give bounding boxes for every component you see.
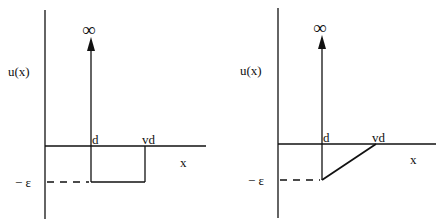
potential-diagrams	[0, 0, 441, 224]
right-eps-label: − ε	[248, 174, 264, 187]
left-eps-label: − ε	[15, 176, 31, 189]
right-d-label: d	[323, 131, 330, 144]
left-ylabel: u(x)	[8, 65, 30, 78]
right-vd-label: vd	[372, 131, 385, 144]
left-panel	[45, 10, 206, 219]
right-infinity-label: ∞	[313, 18, 327, 37]
left-vd-label: vd	[142, 133, 155, 146]
left-xlabel: x	[180, 156, 187, 169]
left-d-label: d	[92, 133, 99, 146]
right-well-slope	[322, 144, 376, 180]
right-ylabel: u(x)	[240, 64, 262, 77]
left-infinity-label: ∞	[82, 20, 96, 39]
right-xlabel: x	[410, 153, 417, 166]
right-panel	[278, 8, 436, 218]
